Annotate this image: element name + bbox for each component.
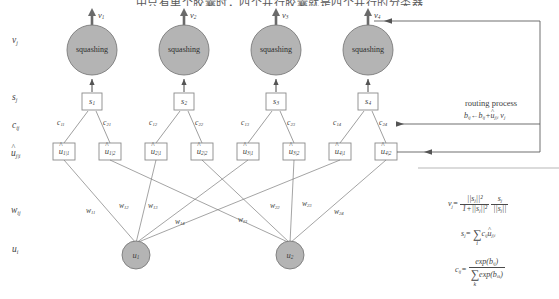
uhat-box-label-31: u3|1 [237,147,259,157]
softmax-eq: = [461,265,466,274]
v3-sub: 3 [286,14,289,20]
uhat22-sub: 2|2 [201,150,207,156]
squashing-label-2: squashing [162,46,206,54]
formula-squash: vj= ||sj||² 1+||sj||² sj ||sj|| [448,195,508,214]
squash-f2-den-lead: ||s [493,204,501,213]
squash-f2-den-tail: || [502,204,506,213]
uhat12-sub: 1|2 [109,150,115,156]
c12-sub: 12 [152,122,157,127]
uhat-box-label-21: u2|1 [145,147,167,157]
s-box-label-1: s1 [82,97,102,107]
sum-sigma-glyph: ∑ [473,227,482,241]
row-label-u-sub: i [17,249,19,255]
uhat-box-label-42: u4|2 [375,147,397,157]
s-boxes-group [82,93,378,110]
row-label-v: vj [12,36,18,47]
weight-label-w22: w22 [270,202,280,211]
row-label-w-sub: ij [17,210,20,216]
c21-sub: 21 [106,122,111,127]
brule-dot-sub: j [504,115,505,120]
coupling-label-c24: c24 [379,119,387,128]
c24-sub: 24 [382,122,387,127]
sum-u-sub: j|i [492,233,496,238]
softmax-den-exp: exp( [479,270,493,279]
softmax-den-tail: ) [500,270,503,279]
softmax-num-lead: exp( [475,257,489,266]
s2-sub: 2 [184,100,187,106]
row-label-c-sub: ij [16,125,19,131]
formula-softmax: cij= exp(bij) ∑kexp(bik) [455,258,505,281]
uhat32-sub: 3|2 [293,150,299,156]
squash-f1-num: ||sj||² [460,195,489,204]
squashing-circles-group [67,25,393,75]
c23-sub: 23 [290,122,295,127]
softmax-den: ∑kexp(bik) [469,267,505,281]
input-node-label-u1: u1 [122,251,150,261]
uhat41-base: u [335,146,339,156]
row-label-uhat-sub: j|i [16,153,21,159]
uhat-box-label-41: u4|1 [329,147,351,157]
w13-sub: 13 [153,205,158,210]
softmax-num-tail: ) [496,257,499,266]
squash-f1-num-tail: ||² [476,194,483,203]
s3-sub: 3 [276,100,279,106]
output-label-v4: v4 [374,11,380,21]
softmax-fraction: exp(bij) ∑kexp(bik) [469,258,505,281]
u1-sub: 1 [137,254,140,260]
sum-eq: = [465,229,470,238]
squash-eq: = [453,199,458,208]
squash-fraction-2: sj ||sj|| [491,195,508,214]
s-box-label-4: s4 [358,97,378,107]
uhat22-base: u [197,146,201,156]
w14-sub: 14 [180,221,185,226]
weight-label-w13: w13 [148,202,158,211]
row-label-u: ui [12,245,18,256]
coupling-label-c14: c14 [333,119,341,128]
brule-term-sub: j|i [495,115,499,120]
row-label-w: wij [11,206,20,217]
uhat11-base: u [59,146,63,156]
uhat11-sub: 1|1 [63,150,69,156]
v2-sub: 2 [194,14,197,20]
squashing-label-4: squashing [346,46,390,54]
squash-f2-den: ||sj|| [491,204,508,214]
coupling-label-c11: c11 [57,119,65,128]
weight-label-w24: w24 [334,208,344,217]
brule-arrow: ← [471,111,479,120]
squash-f1-den-lead: 1+||s [462,204,479,213]
uhat12-base: u [105,146,109,156]
coupling-label-c21: c21 [103,119,111,128]
w11-sub: 11 [91,210,95,215]
c14-sub: 14 [336,122,341,127]
routing-update-rule: bij←bij+uj|i vj [464,112,505,121]
output-arrows-group [88,8,372,34]
uhat41-sub: 4|1 [339,150,345,156]
s-box-label-2: s2 [174,97,194,107]
row-label-uhat: uj|i [11,149,20,160]
weight-edges-group [64,160,386,243]
row-label-v-sub: j [16,40,18,46]
w22-sub: 22 [275,205,280,210]
input-node-label-u2: u2 [276,251,304,261]
output-label-v2: v2 [190,11,196,21]
formula-weighted-sum: sj= ∑icijuj|i [461,228,495,240]
softmax-sigma-limit: k [473,281,476,288]
s-box-label-3: s3 [266,97,286,107]
uhat21-base: u [151,146,155,156]
squash-f2-num: sj [491,195,508,204]
squash-f2-num-sub: j [501,198,502,203]
w23-sub: 23 [307,203,312,208]
s-to-squash-arrows [92,79,368,92]
uhat-box-label-12: u1|2 [99,147,121,157]
uhat32-base: u [289,146,293,156]
uhat-box-label-22: u2|2 [191,147,213,157]
softmax-num: exp(bij) [469,258,505,267]
row-label-uhat-base: u [11,148,16,158]
uhat31-sub: 3|1 [247,150,253,156]
coupling-label-c22: c22 [195,119,203,128]
uhat42-base: u [381,146,385,156]
sum-sigma: ∑i [473,228,482,240]
capsule-routing-diagram: 中只有单个胶囊时，四个并行胶囊就是四个并行的分类器 [0,0,559,299]
softmax-sigma-glyph: ∑ [471,267,480,281]
c13-sub: 13 [244,122,249,127]
